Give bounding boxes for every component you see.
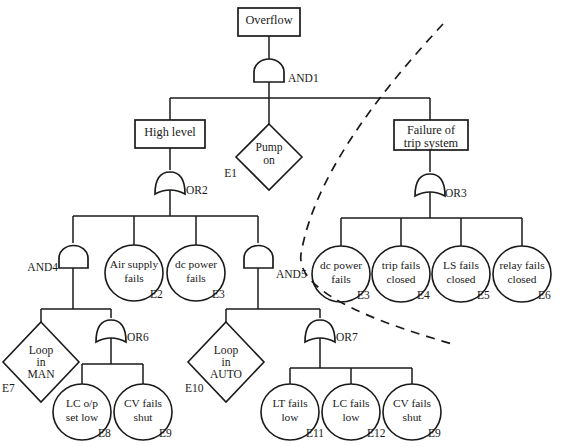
high-level-box [135,120,205,148]
lc-op-set-low-circle [53,384,111,440]
gate-and1-shape [254,59,284,82]
trip-fails-closed-circle [372,246,430,302]
lc-fails-low-circle [322,384,380,440]
relay-fails-closed-circle [493,246,551,302]
air-supply-fails-circle [105,245,163,301]
loop-in-auto-diamond [188,322,264,402]
gate-and5-shape [244,246,273,269]
cv-fails-shut-left-circle [114,384,172,440]
top-event-box [238,8,300,36]
trip-failure-box [394,120,468,150]
cv-fails-shut-right-circle [383,384,441,440]
dc-power-fails-right-circle [312,246,370,302]
fault-tree-graphics [0,0,567,447]
ls-fails-closed-circle [432,246,490,302]
pump-on-diamond [236,124,302,190]
lt-fails-low-circle [261,384,319,440]
fault-tree-diagram: Overflow AND1 High level Pump on E1 Fail… [0,0,567,447]
dc-power-fails-left-circle [167,245,225,301]
gate-and4-shape [59,246,88,269]
